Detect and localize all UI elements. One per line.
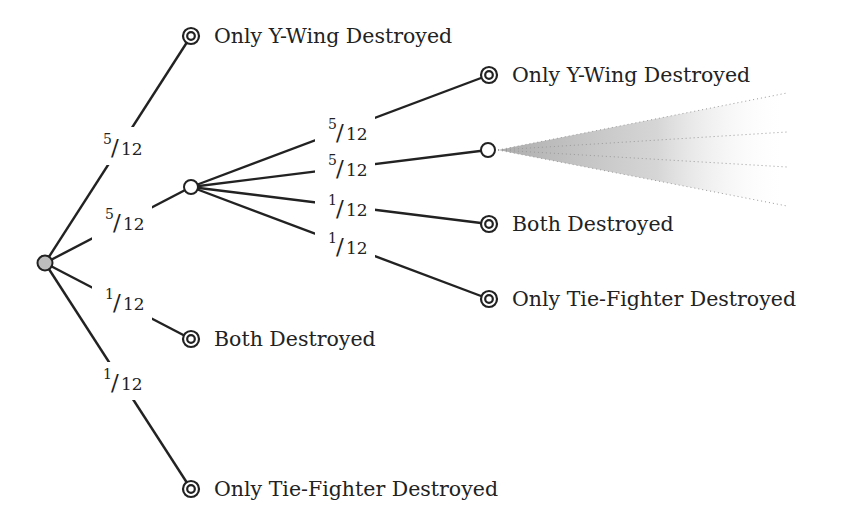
- outcome-label: Only Tie-Fighter Destroyed: [214, 477, 498, 501]
- terminal-node-inner-icon: [485, 295, 493, 303]
- probability-denominator: 12: [346, 160, 368, 180]
- terminal-node-inner-icon: [485, 220, 493, 228]
- node-r_both: Both Destroyed: [481, 212, 674, 236]
- probability-slash: /: [336, 195, 344, 221]
- probability-slash: /: [113, 209, 121, 235]
- outcome-label: Only Tie-Fighter Destroyed: [512, 287, 796, 311]
- probability-slash: /: [111, 369, 119, 395]
- node-n_tie: Only Tie-Fighter Destroyed: [183, 477, 498, 501]
- probability-denominator: 12: [346, 238, 368, 258]
- node-n_top: Only Y-Wing Destroyed: [183, 24, 452, 48]
- probability-label: 5/12: [315, 148, 375, 186]
- chance-node-icon: [481, 143, 495, 157]
- node-root: [38, 256, 53, 271]
- probability-denominator: 12: [123, 294, 145, 314]
- node-n_mid: [184, 180, 198, 194]
- probability-label: 5/12: [315, 112, 375, 150]
- probability-labels: 5/125/121/121/125/125/121/121/12: [90, 112, 375, 400]
- probability-label: 1/12: [90, 362, 150, 400]
- probability-label: 1/12: [92, 282, 152, 320]
- probability-denominator: 12: [123, 214, 145, 234]
- terminal-node-inner-icon: [485, 71, 493, 79]
- tree-edges: [45, 36, 489, 489]
- terminal-node-inner-icon: [187, 335, 195, 343]
- probability-label: 5/12: [92, 202, 152, 240]
- continuation-fan: [498, 93, 787, 206]
- probability-slash: /: [336, 233, 344, 259]
- chance-node-icon: [184, 180, 198, 194]
- probability-slash: /: [336, 155, 344, 181]
- probability-slash: /: [113, 289, 121, 315]
- terminal-node-inner-icon: [187, 32, 195, 40]
- node-r_tie: Only Tie-Fighter Destroyed: [481, 287, 796, 311]
- probability-denominator: 12: [121, 374, 143, 394]
- probability-label: 1/12: [315, 226, 375, 264]
- outcome-label: Only Y-Wing Destroyed: [214, 24, 452, 48]
- terminal-node-inner-icon: [187, 485, 195, 493]
- probability-slash: /: [336, 119, 344, 145]
- probability-label: 5/12: [90, 127, 150, 165]
- outcome-label: Both Destroyed: [214, 327, 376, 351]
- node-n_both: Both Destroyed: [183, 327, 376, 351]
- probability-label: 1/12: [315, 188, 375, 226]
- outcome-label: Both Destroyed: [512, 212, 674, 236]
- probability-denominator: 12: [346, 200, 368, 220]
- fan-shade: [498, 93, 787, 206]
- probability-denominator: 12: [121, 139, 143, 159]
- root-node-icon: [38, 256, 53, 271]
- node-r_y: Only Y-Wing Destroyed: [481, 63, 750, 87]
- node-r_rep: [481, 143, 495, 157]
- outcome-label: Only Y-Wing Destroyed: [512, 63, 750, 87]
- probability-slash: /: [111, 134, 119, 160]
- probability-denominator: 12: [346, 124, 368, 144]
- probability-tree-diagram: 5/125/121/121/125/125/121/121/12 Only Y-…: [0, 0, 853, 531]
